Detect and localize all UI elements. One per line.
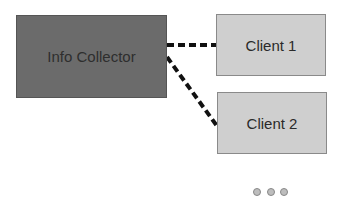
ellipsis-dot bbox=[268, 189, 275, 196]
ellipsis-dot bbox=[254, 189, 261, 196]
node-label: Info Collector bbox=[47, 48, 135, 65]
node-label: Client 1 bbox=[246, 37, 297, 54]
node-label: Client 2 bbox=[247, 115, 298, 132]
ellipsis-dot bbox=[281, 189, 288, 196]
edge-collector-client2 bbox=[167, 57, 217, 126]
node-info-collector: Info Collector bbox=[16, 15, 167, 98]
node-client-1: Client 1 bbox=[216, 14, 326, 76]
node-client-2: Client 2 bbox=[217, 92, 327, 154]
